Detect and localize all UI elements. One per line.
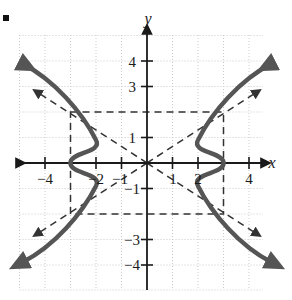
y-tick-label: 1 (129, 130, 137, 146)
x-tick-label: 4 (245, 171, 253, 187)
bullet-marker-icon (3, 15, 9, 21)
graph-canvas: −4 −2 −1 1 2 4 4 3 1 −1 −3 −4 x y (0, 0, 292, 300)
x-tick-labels: −4 −2 −1 1 2 4 (37, 171, 253, 187)
y-tick-label: −4 (124, 257, 140, 273)
x-tick-label: 2 (194, 171, 202, 187)
y-tick-label: 3 (129, 79, 137, 95)
y-axis-label: y (142, 10, 152, 28)
asymptote-negative-slope-upper-left (40, 94, 147, 163)
x-tick-label: −2 (88, 171, 104, 187)
x-tick-label: −4 (37, 171, 53, 187)
x-tick-label: 1 (169, 171, 177, 187)
x-axis-label: x (267, 154, 275, 171)
y-tick-label: −3 (124, 232, 140, 248)
y-tick-label: 4 (129, 54, 137, 70)
asymptote-positive-slope-upper-right (147, 94, 254, 163)
y-tick-label: −1 (124, 181, 140, 197)
hyperbola-figure: −4 −2 −1 1 2 4 4 3 1 −1 −3 −4 x y (0, 0, 292, 300)
